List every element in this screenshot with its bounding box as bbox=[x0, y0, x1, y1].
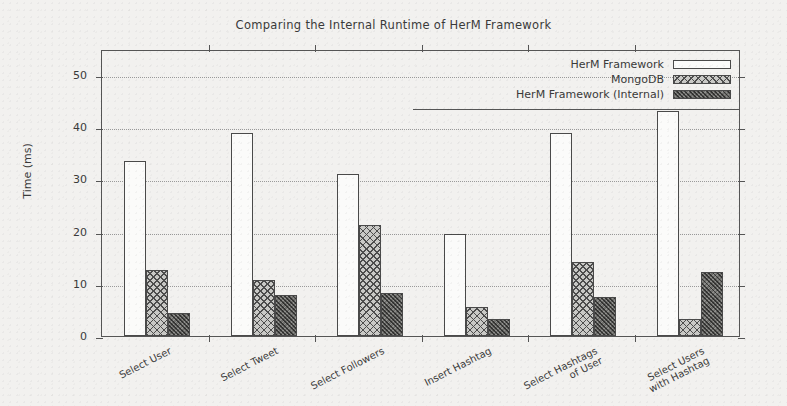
y-axis-tick bbox=[738, 338, 745, 339]
bar-chart-figure: Comparing the Internal Runtime of HerM F… bbox=[0, 0, 787, 406]
x-axis-category-label: Select Hashtags of User bbox=[522, 345, 604, 401]
bar bbox=[679, 319, 701, 336]
bar bbox=[359, 225, 381, 336]
y-axis-tick-label: 40 bbox=[0, 121, 87, 134]
bar bbox=[275, 295, 297, 336]
x-axis-tick bbox=[209, 335, 210, 342]
x-axis-tick bbox=[528, 335, 529, 342]
legend-item: MongoDB bbox=[413, 72, 731, 87]
bar bbox=[550, 133, 572, 336]
legend-item-label: HerM Framework (Internal) bbox=[516, 88, 664, 101]
bar bbox=[572, 262, 594, 336]
bar bbox=[466, 307, 488, 336]
bar bbox=[444, 234, 466, 336]
bar bbox=[657, 111, 679, 336]
x-axis-category-label: Select Tweet bbox=[219, 345, 280, 383]
y-axis-tick-label: 20 bbox=[0, 226, 87, 239]
legend-swatch bbox=[673, 60, 731, 69]
x-axis-tick bbox=[635, 335, 636, 342]
bar bbox=[168, 313, 190, 336]
y-axis-tick bbox=[738, 234, 745, 235]
y-axis-tick-label: 10 bbox=[0, 278, 87, 291]
x-axis-category-label: Insert Hashtag bbox=[422, 345, 492, 388]
legend-item: HerM Framework bbox=[413, 57, 731, 72]
legend-item-label: HerM Framework bbox=[571, 58, 664, 71]
chart-title: Comparing the Internal Runtime of HerM F… bbox=[0, 18, 787, 32]
legend-swatch bbox=[673, 75, 731, 84]
bar bbox=[124, 161, 146, 336]
x-axis-category-label: Select Users with Hashtag bbox=[642, 345, 711, 395]
y-axis-tick bbox=[738, 129, 745, 130]
bar bbox=[253, 280, 275, 336]
y-axis-label: Time (ms) bbox=[21, 143, 34, 198]
y-axis-tick bbox=[96, 338, 103, 339]
bar bbox=[146, 270, 168, 336]
x-axis-tick bbox=[315, 335, 316, 342]
y-axis-tick bbox=[738, 181, 745, 182]
x-axis-category-label: Select User bbox=[118, 345, 174, 381]
legend-swatch bbox=[673, 90, 731, 99]
bar bbox=[594, 297, 616, 336]
legend-item: HerM Framework (Internal) bbox=[413, 87, 731, 102]
bar bbox=[488, 319, 510, 336]
legend-item-label: MongoDB bbox=[611, 73, 664, 86]
bar bbox=[337, 174, 359, 336]
y-axis-tick bbox=[738, 286, 745, 287]
bar bbox=[231, 133, 253, 336]
x-axis-category-label: Select Followers bbox=[309, 345, 386, 392]
x-axis-tick bbox=[422, 335, 423, 342]
bar bbox=[701, 272, 723, 336]
chart-legend: HerM FrameworkMongoDBHerM Framework (Int… bbox=[413, 50, 740, 110]
y-axis-tick-label: 0 bbox=[0, 330, 87, 343]
y-axis-tick-label: 30 bbox=[0, 173, 87, 186]
y-axis-tick-label: 50 bbox=[0, 69, 87, 82]
bar bbox=[381, 293, 403, 336]
